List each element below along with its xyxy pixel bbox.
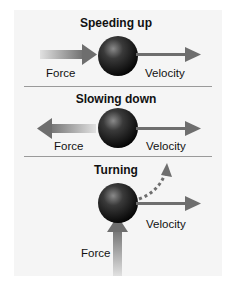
velocity-arrow-icon: [136, 47, 201, 62]
force-arrow-right-icon: [40, 44, 97, 65]
velocity-label: Velocity: [145, 67, 185, 79]
section-divider: [24, 86, 212, 87]
force-arrow-up-icon: [107, 216, 128, 276]
velocity-arrow-icon: [136, 121, 201, 136]
velocity-arrow-icon: [136, 196, 201, 211]
force-label: Force: [81, 247, 110, 259]
force-arrow-left-icon: [37, 118, 96, 139]
velocity-label: Velocity: [146, 218, 186, 230]
section-divider: [24, 156, 212, 157]
force-label: Force: [46, 67, 75, 79]
section-title: Turning: [0, 163, 232, 177]
section-title: Speeding up: [0, 16, 232, 30]
ball-icon: [98, 36, 138, 76]
velocity-label: Velocity: [146, 140, 186, 152]
ball-icon: [98, 108, 138, 148]
ball-icon: [98, 183, 138, 223]
section-title: Slowing down: [0, 92, 232, 106]
force-label: Force: [54, 140, 83, 152]
force-velocity-diagram: [0, 0, 232, 289]
